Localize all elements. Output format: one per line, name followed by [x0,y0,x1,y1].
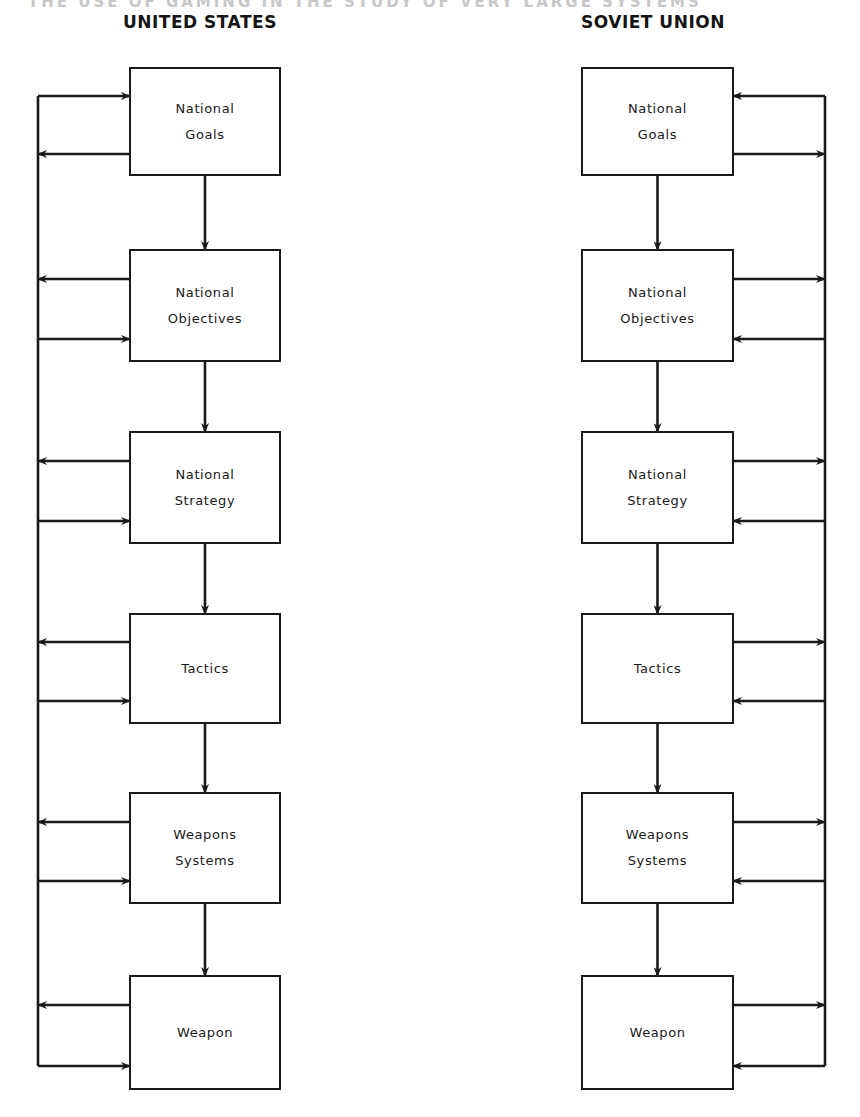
su-box-national-objectives: NationalObjectives [582,250,733,361]
box-label-line1: National [176,96,235,122]
box-label-line2: Goals [176,122,235,148]
us-box-weapons-systems: WeaponsSystems [130,793,280,903]
box-label-line1: Weapon [629,1020,685,1046]
box-label-line1: National [175,462,236,488]
box-label-line1: National [627,462,688,488]
box-label-line1: Weapons [626,822,689,848]
su-box-weapon: Weapon [582,976,733,1089]
box-label-line2: Strategy [627,488,688,514]
box-label-line2: Objectives [168,306,242,332]
su-box-national-strategy: NationalStrategy [582,432,733,543]
box-label-line2: Objectives [620,306,694,332]
box-label-line2: Systems [173,848,236,874]
su-box-tactics: Tactics [582,614,733,723]
us-box-tactics: Tactics [130,614,280,723]
box-label-line1: Weapons [173,822,236,848]
box-label-line1: Tactics [634,656,682,682]
us-box-weapon: Weapon [130,976,280,1089]
box-label-line1: Tactics [181,656,229,682]
box-label-line2: Goals [628,122,687,148]
box-label-line1: Weapon [177,1020,233,1046]
us-box-national-objectives: NationalObjectives [130,250,280,361]
us-box-national-goals: NationalGoals [130,68,280,175]
box-label-line1: National [628,96,687,122]
us-box-national-strategy: NationalStrategy [130,432,280,543]
box-label-line1: National [168,280,242,306]
box-label-line1: National [620,280,694,306]
su-box-weapons-systems: WeaponsSystems [582,793,733,903]
su-box-national-goals: NationalGoals [582,68,733,175]
box-label-line2: Strategy [175,488,236,514]
box-label-line2: Systems [626,848,689,874]
